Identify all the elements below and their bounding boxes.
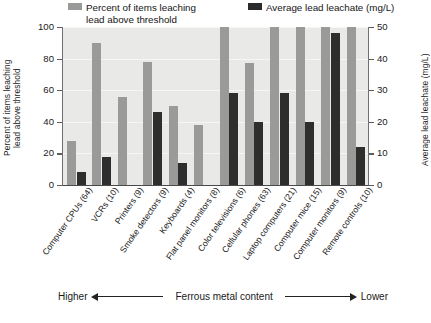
axis-tick-label-left: 40 (26, 117, 54, 127)
axis-tick-right (369, 59, 374, 60)
bar-leachate (356, 147, 365, 185)
bar-group (347, 27, 367, 185)
axis-tick-label-left: 20 (26, 148, 54, 158)
axis-tick-label-right: 0 (377, 180, 401, 190)
bar-group (296, 27, 316, 185)
bar-percent (67, 141, 76, 185)
axis-tick-right (369, 153, 374, 154)
bar-leachate (331, 33, 340, 185)
axis-tick-right (369, 185, 374, 186)
category-axis-labels: Computer CPUs (64)VCRs (10)Printers (9)S… (62, 186, 367, 278)
bar-percent (270, 27, 279, 185)
right-axis-title: Average lead leachate (mg/L) (420, 30, 430, 190)
bar-group (92, 27, 112, 185)
axis-tick-label-right: 30 (377, 85, 401, 95)
chart-legend: Percent of items leachinglead above thre… (68, 2, 368, 28)
bar-percent (296, 27, 305, 185)
bar-group (321, 27, 341, 185)
bar-percent (143, 62, 152, 185)
annotation-higher: Higher (58, 291, 87, 302)
bar-leachate (305, 122, 314, 185)
bar-group (245, 27, 265, 185)
bar-series-container (63, 27, 368, 185)
arrow-left-icon (91, 291, 169, 301)
axis-tick-left (57, 122, 62, 123)
legend-label-leachate: Average lead leachate (mg/L) (266, 2, 394, 14)
legend-item-percent: Percent of items leachinglead above thre… (68, 2, 243, 25)
bar-percent (220, 27, 229, 185)
plot-area (62, 27, 369, 186)
axis-tick-left (57, 153, 62, 154)
bar-percent (118, 97, 127, 185)
annotation-lower: Lower (361, 291, 388, 302)
axis-tick-left (57, 27, 62, 28)
bar-leachate (254, 122, 263, 185)
axis-tick-right (369, 27, 374, 28)
category-label: Computer CPUs (64) (41, 186, 94, 257)
bar-leachate (229, 93, 238, 185)
axis-tick-label-right: 10 (377, 148, 401, 158)
bar-leachate (280, 93, 289, 185)
bar-group (118, 27, 138, 185)
bar-percent (321, 27, 330, 185)
bar-group (220, 27, 240, 185)
bar-group (270, 27, 290, 185)
left-axis-title: Percent of items leaching lead above thr… (2, 28, 22, 188)
category-label: Remote controls (10) (321, 186, 374, 257)
axis-tick-label-left: 0 (26, 180, 54, 190)
chart-figure: Percent of items leaching lead above thr… (0, 0, 431, 323)
axis-tick-left (57, 90, 62, 91)
axis-tick-right (369, 90, 374, 91)
axis-tick-label-left: 60 (26, 85, 54, 95)
legend-swatch-percent-icon (68, 3, 82, 10)
axis-tick-label-right: 20 (377, 117, 401, 127)
axis-tick-label-right: 50 (377, 22, 401, 32)
arrow-right-icon (279, 291, 357, 301)
legend-label-percent-line2: lead above threshold (86, 14, 177, 25)
bar-leachate (153, 112, 162, 185)
axis-tick-left (57, 59, 62, 60)
legend-label-percent: Percent of items leachinglead above thre… (86, 2, 196, 25)
bar-group (67, 27, 87, 185)
bar-percent (194, 125, 203, 185)
bar-percent (347, 27, 356, 185)
annotation-middle: Ferrous metal content (173, 291, 274, 302)
axis-tick-label-right: 40 (377, 54, 401, 64)
bar-percent (245, 63, 254, 185)
bar-leachate (102, 157, 111, 185)
axis-tick-label-left: 80 (26, 54, 54, 64)
bar-group (194, 27, 214, 185)
ferrous-metal-annotation: Higher Ferrous metal content Lower (0, 288, 431, 308)
legend-item-leachate: Average lead leachate (mg/L) (248, 2, 431, 14)
legend-swatch-leachate-icon (248, 3, 262, 10)
legend-label-percent-line1: Percent of items leaching (86, 2, 196, 13)
axis-tick-label-left: 100 (26, 22, 54, 32)
bar-leachate (178, 163, 187, 185)
bar-leachate (77, 172, 86, 185)
bar-group (143, 27, 163, 185)
bar-percent (169, 106, 178, 185)
bar-group (169, 27, 189, 185)
bar-percent (92, 43, 101, 185)
axis-tick-right (369, 122, 374, 123)
